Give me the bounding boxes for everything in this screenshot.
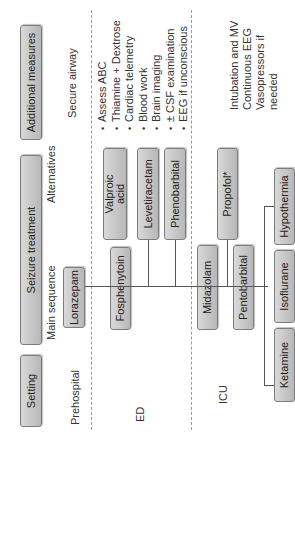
alternatives-label: Alternatives [45,146,57,203]
list-item: Blood work [137,20,151,130]
drug-valproic-acid: Valproic acid [103,148,127,240]
divider-ed-icu [191,10,192,430]
icu-measure-line: Intubation and MV [228,21,241,110]
additional-secure-airway: Secure airway [66,48,78,118]
icu-measure-line: Continuous EEG [241,21,254,110]
setting-prehospital: Prehospital [69,370,81,425]
connector-hypothermia [264,206,274,207]
connector-propofol [227,240,228,287]
drug-phenobarbital: Phenobarbital [164,148,186,240]
main-sequence-label: Main sequence [45,265,57,340]
drug-ketamine: Ketamine [274,328,295,402]
header-setting: Setting [20,355,42,427]
ed-additional-list: Assess ABC Thiamine + Dextrose Cardiac t… [96,20,191,130]
status-epilepticus-diagram: Setting Seizure treatment Additional mea… [0,0,295,556]
connector-refractory-branch [264,207,265,386]
drug-isoflurane: Isoflurane [274,250,295,323]
list-item: Thiamine + Dextrose [110,20,124,130]
connector-ketamine [264,385,274,386]
list-item: Brain imaging [150,20,164,130]
drug-propofol: Propofol* [217,148,238,240]
therapy-hypothermia: Hypothermia [274,168,295,245]
drug-midazolam: Midazolam [197,245,218,330]
connector-phenobarbital [175,240,176,287]
list-item: Cardiac telemetry [123,20,137,130]
setting-icu: ICU [217,385,229,404]
list-item: Assess ABC [96,20,110,130]
main-sequence-connector [85,286,268,287]
drug-fosphenytoin: Fosphenytoin [110,247,131,330]
drug-levetiracetam: Levetiracetam [137,148,159,240]
icu-measure-line: Vasopressors if [254,21,267,110]
connector-refractory-stem [254,286,264,287]
connector-levetiracetam [148,240,149,287]
icu-measure-line: needed [267,21,280,110]
list-item: ± CSF examination [164,20,178,130]
valproic-line-2: acid [115,184,126,204]
icu-additional-text: Intubation and MV Continuous EEG Vasopre… [228,21,280,110]
header-seizure-treatment: Seizure treatment [20,155,42,345]
header-additional-measures: Additional measures [20,25,42,140]
drug-lorazepam: Lorazepam [63,267,85,328]
setting-ed: ED [134,407,146,422]
list-item: EEG if unconscious [177,20,191,130]
divider-prehospital-ed [91,10,92,430]
drug-pentobarbital: Pentobarbital [233,245,254,330]
